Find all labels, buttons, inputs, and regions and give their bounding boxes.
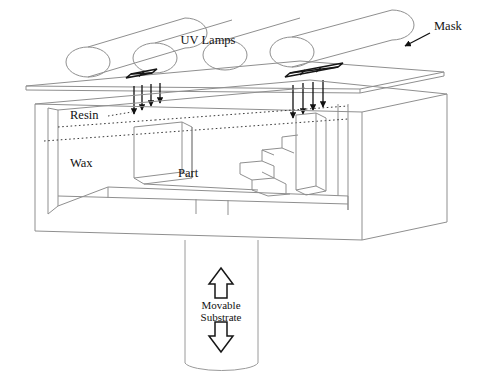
mask-aperture-right xyxy=(285,63,343,77)
uv-lamp-cylinder-1 xyxy=(66,18,207,77)
wax-label: Wax xyxy=(70,156,93,170)
part-label: Part xyxy=(178,166,199,180)
uv-lamp-cylinder-4 xyxy=(270,10,414,67)
part-geometry xyxy=(134,113,326,196)
resin-vat xyxy=(35,80,447,240)
movable-substrate-label-line2: Substrate xyxy=(201,311,242,323)
uv-beam-arrows-right xyxy=(293,80,323,118)
substrate-down-arrow-icon xyxy=(209,322,233,352)
stereolithography-diagram: UV Lamps Mask Resin Wax Part Movable Sub… xyxy=(0,0,488,392)
resin-label: Resin xyxy=(70,108,99,122)
diagram-canvas: UV Lamps Mask Resin Wax Part Movable Sub… xyxy=(0,0,488,392)
substrate-up-arrow-icon xyxy=(209,268,233,298)
mask-label: Mask xyxy=(434,19,463,33)
movable-substrate-label-line1: Movable xyxy=(201,299,240,311)
uv-lamps-label: UV Lamps xyxy=(181,33,236,47)
resin-label-leader xyxy=(108,112,132,116)
